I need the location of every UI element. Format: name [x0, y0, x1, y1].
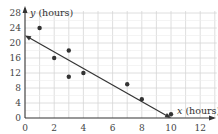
data-point [52, 56, 56, 60]
y-axis-label: y (hours) [29, 7, 73, 18]
x-tick-label: 8 [139, 123, 145, 133]
data-point [169, 112, 173, 116]
data-point [67, 48, 71, 52]
scatter-plot: 0246810120481216202428y (hours)x (hours) [0, 0, 218, 134]
x-axis-label: x (hours) [177, 105, 218, 116]
y-tick-label: 12 [10, 68, 21, 78]
data-point [125, 82, 129, 86]
y-tick-label: 8 [15, 83, 21, 93]
data-point [37, 26, 41, 30]
arrowhead-icon [25, 36, 31, 41]
x-tick-label: 0 [22, 123, 28, 133]
x-tick-label: 2 [51, 123, 57, 133]
x-tick-label: 10 [165, 123, 177, 133]
x-tick-label: 6 [110, 123, 116, 133]
y-tick-label: 20 [10, 38, 22, 48]
y-tick-label: 4 [15, 98, 21, 108]
x-tick-label: 12 [194, 123, 205, 133]
x-tick-label: 4 [81, 123, 87, 133]
y-tick-label: 28 [10, 8, 22, 18]
y-tick-label: 0 [15, 113, 21, 123]
data-point [81, 71, 85, 75]
data-point [67, 75, 71, 79]
y-tick-label: 24 [10, 23, 22, 33]
y-axis-arrow-icon [23, 6, 28, 13]
data-point [140, 97, 144, 101]
grid [25, 11, 217, 118]
y-tick-label: 16 [10, 53, 22, 63]
